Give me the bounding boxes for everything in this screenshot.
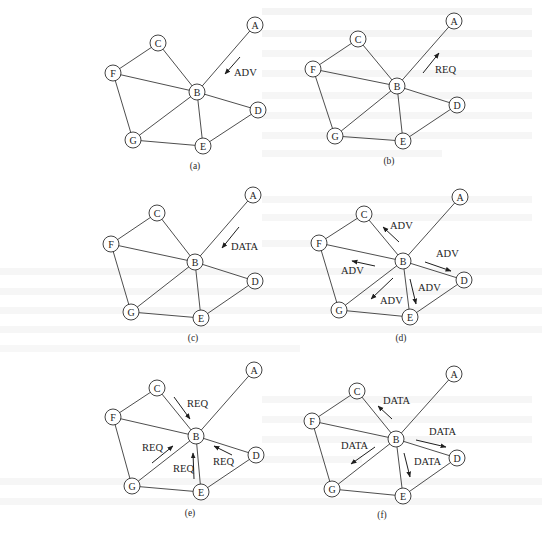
message-data: DATA bbox=[222, 227, 259, 252]
node-label: A bbox=[450, 16, 458, 27]
edge-f-g bbox=[113, 73, 133, 140]
node-label: G bbox=[129, 135, 136, 146]
node-d: D bbox=[456, 272, 472, 288]
node-d: D bbox=[248, 447, 264, 463]
message-req: REQ bbox=[423, 53, 456, 75]
edge-e-d bbox=[403, 105, 457, 141]
panel-e: REQREQREQREQACFBDGE(e) bbox=[105, 362, 264, 519]
node-d: D bbox=[247, 273, 263, 289]
node-label: C bbox=[355, 34, 362, 45]
node-f: F bbox=[105, 65, 121, 81]
edge-f-b bbox=[111, 244, 195, 262]
node-label: F bbox=[110, 412, 116, 423]
node-label: B bbox=[193, 431, 200, 442]
node-g: G bbox=[331, 302, 347, 318]
arrow-icon bbox=[425, 262, 451, 271]
arrow-icon bbox=[404, 453, 410, 477]
node-label: E bbox=[198, 487, 204, 498]
node-f: F bbox=[105, 409, 121, 425]
message-label: ADV bbox=[234, 67, 257, 78]
edge-b-g bbox=[335, 86, 397, 136]
message-label: DATA bbox=[414, 456, 442, 467]
edge-f-b bbox=[313, 69, 397, 86]
edge-f-g bbox=[313, 69, 335, 136]
node-label: A bbox=[249, 190, 257, 201]
node-g: G bbox=[324, 481, 340, 497]
node-label: D bbox=[460, 275, 467, 286]
edge-f-g bbox=[312, 421, 332, 489]
node-c: C bbox=[356, 206, 372, 222]
edge-a-b bbox=[197, 25, 255, 92]
node-label: G bbox=[127, 307, 134, 318]
node-label: F bbox=[108, 239, 114, 250]
node-g: G bbox=[125, 132, 141, 148]
node-c: C bbox=[350, 31, 366, 47]
node-f: F bbox=[311, 235, 327, 251]
node-label: D bbox=[453, 100, 460, 111]
edge-g-e bbox=[131, 312, 201, 318]
node-e: E bbox=[395, 133, 411, 149]
node-d: D bbox=[250, 102, 266, 118]
message-label: ADV bbox=[380, 295, 403, 306]
node-label: D bbox=[252, 450, 259, 461]
edge-e-d bbox=[201, 281, 255, 318]
node-f: F bbox=[305, 61, 321, 77]
node-g: G bbox=[327, 128, 343, 144]
edge-b-g bbox=[131, 262, 195, 312]
edges bbox=[313, 21, 457, 141]
node-label: B bbox=[194, 87, 201, 98]
panel-a: ADVACFBDGE(a) bbox=[105, 17, 266, 172]
node-label: C bbox=[354, 386, 361, 397]
message-adv: ADV bbox=[383, 220, 413, 242]
node-label: E bbox=[198, 313, 204, 324]
message-adv: ADV bbox=[425, 248, 459, 271]
message-data: DATA bbox=[378, 395, 411, 419]
message-data: DATA bbox=[416, 426, 457, 447]
node-d: D bbox=[449, 97, 465, 113]
node-label: G bbox=[128, 481, 135, 492]
node-label: E bbox=[400, 136, 406, 147]
node-label: A bbox=[250, 365, 258, 376]
edge-b-d bbox=[195, 262, 255, 281]
node-f: F bbox=[103, 236, 119, 252]
edge-g-e bbox=[133, 140, 203, 146]
edge-f-g bbox=[111, 244, 131, 312]
panel-caption: (d) bbox=[395, 333, 406, 344]
nodes: ACFBDGE bbox=[103, 187, 263, 326]
arrow-icon bbox=[416, 440, 446, 447]
edge-b-d bbox=[397, 86, 457, 105]
node-a: A bbox=[246, 362, 262, 378]
node-label: G bbox=[328, 484, 335, 495]
node-c: C bbox=[149, 205, 165, 221]
message-label: DATA bbox=[341, 440, 369, 451]
panel-caption: (e) bbox=[185, 508, 196, 519]
nodes: ACFBDGE bbox=[105, 362, 264, 500]
node-label: A bbox=[450, 369, 458, 380]
node-label: A bbox=[251, 20, 259, 31]
node-a: A bbox=[446, 366, 462, 382]
node-label: C bbox=[155, 38, 162, 49]
node-c: C bbox=[349, 383, 365, 399]
message-label: REQ bbox=[142, 442, 163, 453]
edge-g-e bbox=[132, 486, 201, 492]
edges bbox=[111, 195, 255, 318]
panel-c: DATAACFBDGE(c) bbox=[103, 187, 263, 344]
node-label: E bbox=[407, 312, 413, 323]
message-adv: ADV bbox=[341, 261, 375, 276]
node-c: C bbox=[150, 35, 166, 51]
panel-caption: (f) bbox=[377, 510, 387, 521]
node-label: B bbox=[192, 257, 199, 268]
node-label: F bbox=[309, 416, 315, 427]
node-label: E bbox=[400, 491, 406, 502]
node-a: A bbox=[446, 13, 462, 29]
edge-b-d bbox=[197, 92, 258, 110]
message-req: REQ bbox=[173, 453, 194, 479]
spin-protocol-figure: ADVACFBDGE(a)REQACFBDGE(b)DATAACFBDGE(c)… bbox=[0, 0, 542, 536]
node-e: E bbox=[193, 484, 209, 500]
node-e: E bbox=[195, 138, 211, 154]
panel-b: REQACFBDGE(b) bbox=[305, 13, 465, 167]
nodes: ACFBDGE bbox=[105, 17, 266, 154]
node-c: C bbox=[149, 380, 165, 396]
node-label: C bbox=[154, 208, 161, 219]
node-label: B bbox=[393, 434, 400, 445]
